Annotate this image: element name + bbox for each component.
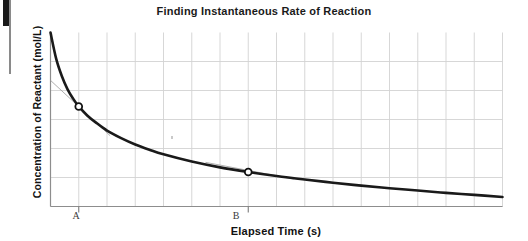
tangent-lines: [51, 80, 294, 179]
x-tick-label-b: B: [226, 210, 246, 221]
dust-speck-artifact: [171, 136, 173, 139]
chart-page: Finding Instantaneous Rate of Reaction C…: [0, 0, 528, 241]
x-tick-label-a: A: [66, 210, 86, 221]
axis-ticks: [79, 207, 249, 213]
plot-area: [0, 0, 528, 241]
